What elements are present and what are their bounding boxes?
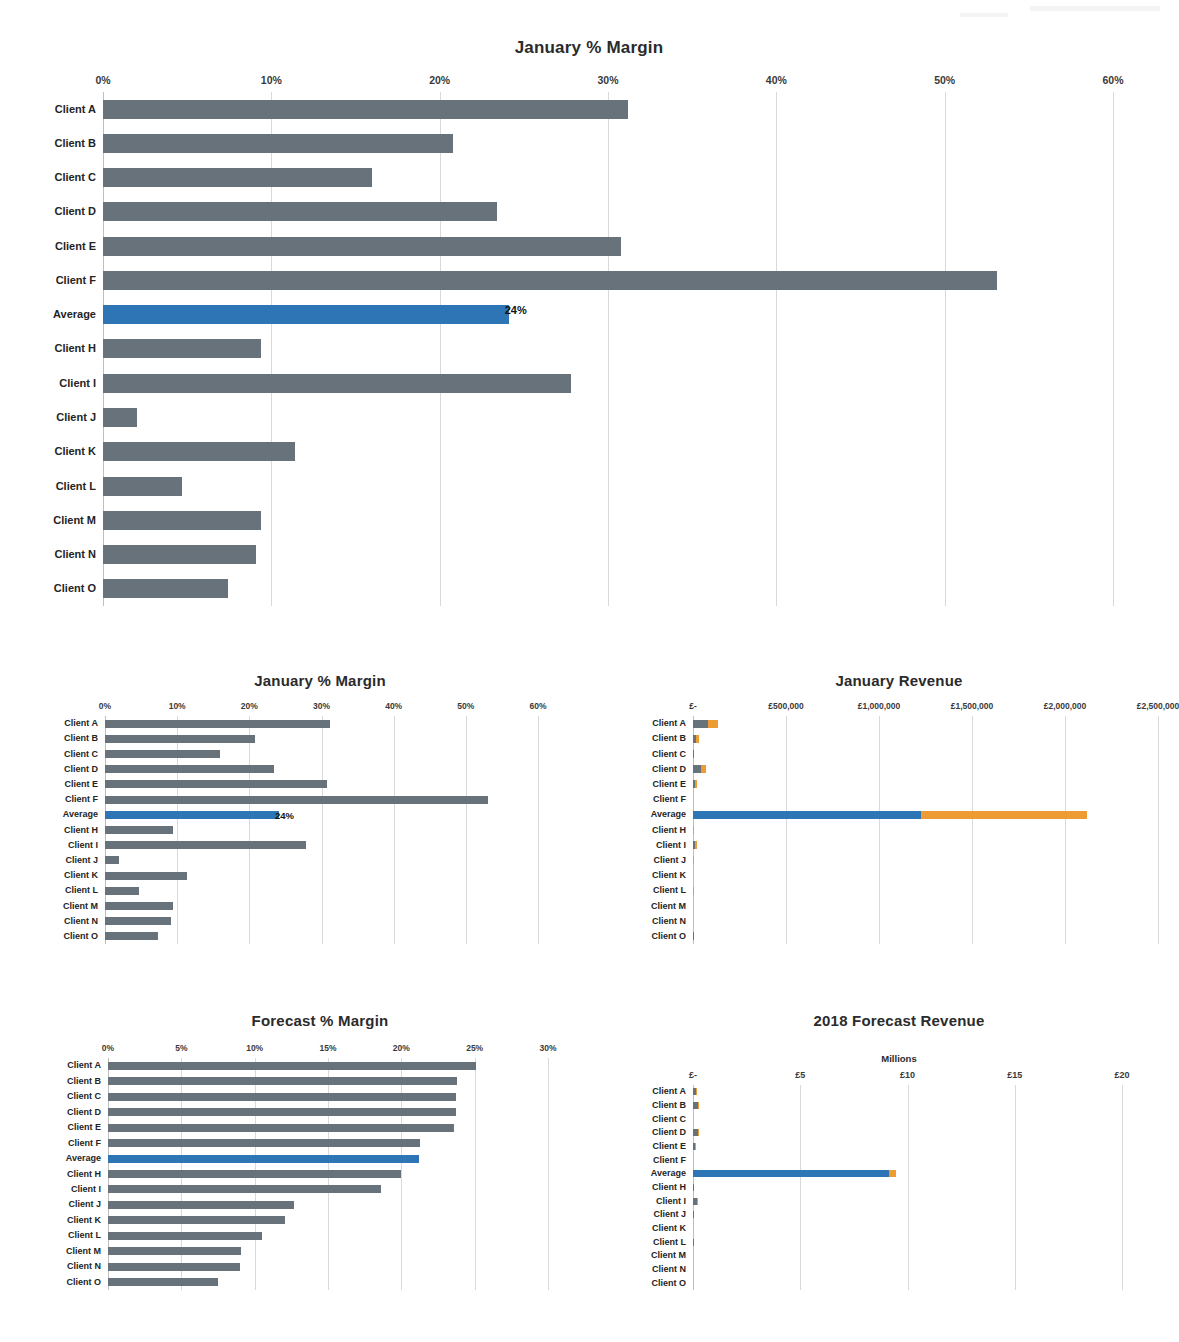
bar-segment-margin[interactable] bbox=[708, 720, 718, 728]
bar[interactable] bbox=[103, 237, 621, 256]
bar[interactable] bbox=[103, 100, 628, 119]
stacked-bar[interactable] bbox=[693, 872, 697, 880]
stacked-bar[interactable] bbox=[693, 856, 705, 864]
bar[interactable] bbox=[105, 796, 488, 804]
bar[interactable] bbox=[105, 932, 158, 940]
stacked-bar[interactable] bbox=[693, 735, 745, 743]
stacked-bar[interactable] bbox=[693, 1239, 702, 1246]
stacked-bar[interactable] bbox=[693, 796, 695, 804]
stacked-bar[interactable] bbox=[693, 1170, 988, 1177]
bar-segment-margin[interactable] bbox=[696, 1088, 697, 1095]
bar[interactable] bbox=[108, 1062, 476, 1070]
stacked-bar[interactable] bbox=[693, 1157, 695, 1164]
bar-segment-cost[interactable] bbox=[693, 765, 701, 773]
x-tick-label: £1,500,000 bbox=[951, 701, 994, 711]
bar[interactable] bbox=[103, 339, 261, 358]
bar-track bbox=[105, 826, 538, 834]
bar[interactable] bbox=[105, 841, 306, 849]
stacked-bar[interactable] bbox=[693, 1280, 699, 1287]
bar[interactable] bbox=[105, 917, 171, 925]
bar-segment-margin[interactable] bbox=[696, 735, 699, 743]
category-label: Client B bbox=[67, 1077, 108, 1086]
stacked-bar[interactable] bbox=[693, 902, 695, 910]
bar-segment-margin[interactable] bbox=[701, 765, 706, 773]
stacked-bar[interactable] bbox=[693, 1088, 731, 1095]
bar[interactable] bbox=[108, 1263, 240, 1271]
stacked-bar[interactable] bbox=[693, 1143, 726, 1150]
bar[interactable] bbox=[108, 1170, 401, 1178]
bar-segment-margin[interactable] bbox=[889, 1170, 896, 1177]
stacked-bar[interactable] bbox=[693, 1102, 743, 1109]
bar[interactable] bbox=[103, 271, 997, 290]
bar[interactable] bbox=[103, 168, 372, 187]
bar[interactable] bbox=[105, 872, 187, 880]
stacked-bar[interactable] bbox=[693, 1116, 695, 1123]
stacked-bar[interactable] bbox=[693, 720, 801, 728]
stacked-bar[interactable] bbox=[693, 765, 770, 773]
bar[interactable] bbox=[105, 826, 173, 834]
bar[interactable] bbox=[108, 1185, 381, 1193]
stacked-bar[interactable] bbox=[693, 1184, 700, 1191]
bar-segment-cost[interactable] bbox=[693, 1170, 889, 1177]
bar-segment-margin[interactable] bbox=[695, 780, 696, 788]
stacked-bar[interactable] bbox=[693, 1266, 696, 1273]
chart-january-revenue: January Revenue £-£500,000£1,000,000£1,5… bbox=[620, 672, 1178, 982]
bar[interactable] bbox=[103, 442, 295, 461]
stacked-bar[interactable] bbox=[693, 1129, 740, 1136]
bar-segment-margin[interactable] bbox=[695, 841, 697, 849]
bar-track bbox=[105, 932, 538, 940]
bar[interactable] bbox=[108, 1077, 457, 1085]
bar[interactable] bbox=[108, 1278, 218, 1286]
bar[interactable] bbox=[103, 408, 137, 427]
bar[interactable] bbox=[103, 545, 256, 564]
x-axis-ticks: £-£500,000£1,000,000£1,500,000£2,000,000… bbox=[693, 701, 1158, 716]
bar[interactable] bbox=[103, 477, 182, 496]
bar[interactable] bbox=[105, 887, 139, 895]
bar[interactable]: 24% bbox=[105, 811, 279, 819]
stacked-bar[interactable] bbox=[693, 932, 701, 940]
bar-segment-margin[interactable] bbox=[697, 1198, 698, 1205]
bar[interactable] bbox=[105, 735, 255, 743]
bar[interactable] bbox=[105, 765, 274, 773]
stacked-bar[interactable] bbox=[693, 841, 736, 849]
bar[interactable] bbox=[103, 202, 497, 221]
bar-segment-cost[interactable] bbox=[693, 811, 921, 819]
stacked-bar[interactable] bbox=[693, 750, 700, 758]
stacked-bar[interactable] bbox=[693, 826, 705, 834]
bar-segment-cost[interactable] bbox=[693, 720, 708, 728]
stacked-bar[interactable] bbox=[693, 1252, 696, 1259]
bar[interactable] bbox=[103, 579, 228, 598]
bar[interactable] bbox=[108, 1216, 285, 1224]
bar-segment-margin[interactable] bbox=[698, 1102, 699, 1109]
bar[interactable]: 24% bbox=[103, 305, 509, 324]
bar-track bbox=[103, 168, 1113, 187]
bar[interactable] bbox=[103, 374, 571, 393]
stacked-bar[interactable] bbox=[693, 887, 705, 895]
bar[interactable] bbox=[108, 1108, 456, 1116]
stacked-bar[interactable] bbox=[693, 917, 696, 925]
bar[interactable] bbox=[108, 1139, 420, 1147]
bar-segment-margin[interactable] bbox=[921, 811, 1087, 819]
category-label: Client C bbox=[67, 1092, 108, 1101]
stacked-bar[interactable] bbox=[693, 1211, 703, 1218]
bar[interactable] bbox=[108, 1093, 456, 1101]
bar[interactable] bbox=[105, 856, 119, 864]
bar[interactable] bbox=[105, 750, 220, 758]
bar[interactable] bbox=[108, 1201, 294, 1209]
stacked-bar[interactable] bbox=[693, 811, 1121, 819]
stacked-bar[interactable] bbox=[693, 1225, 696, 1232]
category-label: Client I bbox=[68, 841, 105, 850]
stacked-bar[interactable] bbox=[693, 780, 736, 788]
bar-track bbox=[105, 796, 538, 804]
bar[interactable] bbox=[105, 780, 327, 788]
bar[interactable] bbox=[103, 134, 453, 153]
bar[interactable] bbox=[105, 902, 173, 910]
bar[interactable] bbox=[105, 720, 330, 728]
bar[interactable] bbox=[108, 1232, 262, 1240]
bar[interactable] bbox=[103, 511, 261, 530]
bar[interactable] bbox=[108, 1124, 454, 1132]
bar[interactable] bbox=[108, 1247, 241, 1255]
bar-segment-margin[interactable] bbox=[698, 1129, 699, 1136]
bar[interactable] bbox=[108, 1155, 419, 1163]
stacked-bar[interactable] bbox=[693, 1198, 738, 1205]
